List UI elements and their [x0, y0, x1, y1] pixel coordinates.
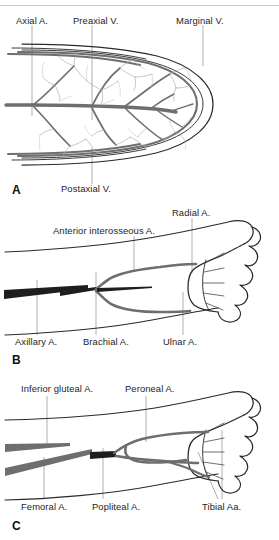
- plexus-lower-h: [138, 128, 147, 137]
- plexus-upper-v: [60, 96, 72, 101]
- plexus-lower-d: [86, 139, 94, 151]
- anterior-interosseous-artery: [97, 287, 152, 292]
- label-axial-artery: Axial A.: [16, 15, 48, 26]
- axial-branch-upper-4: [150, 94, 174, 109]
- plexus-lower-o: [85, 126, 92, 136]
- label-popliteal-artery: Popliteal A.: [92, 501, 140, 512]
- label-marginal-vein: Marginal V.: [176, 15, 224, 26]
- label-peroneal-artery: Peroneal A.: [125, 383, 175, 394]
- label-radial-artery: Radial A.: [172, 207, 210, 218]
- limb-artery-development-figure: Axial A. Preaxial V. Marginal V. Postaxi…: [0, 0, 279, 540]
- panel-a-embryonic-limb-bud: Axial A. Preaxial V. Marginal V. Postaxi…: [0, 8, 279, 200]
- plexus-lower-c: [40, 129, 54, 135]
- axial-branch-lower-3: [126, 109, 163, 140]
- axial-branch-upper-5: [172, 104, 193, 111]
- plexus-upper-i: [120, 68, 135, 77]
- plexus-upper-q: [42, 62, 44, 77]
- axial-branch-upper-3: [124, 74, 170, 107]
- panel-letter-b: B: [12, 353, 21, 367]
- hand-plate-contour-upper: [188, 244, 244, 312]
- plexus-lower-s: [184, 139, 186, 149]
- axial-branch-lower-4: [158, 111, 182, 127]
- label-tibial-arteries: Tibial Aa.: [202, 501, 241, 512]
- plexus-upper-d: [43, 77, 55, 85]
- plexus-upper-b: [74, 53, 78, 66]
- peroneal-artery-proximal: [114, 432, 208, 453]
- popliteal-artery: [90, 451, 116, 459]
- top-divider-rule: [0, 5, 279, 6]
- plexus-lower-p: [129, 129, 138, 137]
- plexus-upper-j: [135, 74, 152, 77]
- foot-plate-digit-scallops: [218, 398, 261, 493]
- ulnar-artery: [96, 291, 190, 312]
- label-ulnar-artery: Ulnar A.: [163, 336, 197, 347]
- panel-letter-a: A: [12, 183, 21, 197]
- lower-limb-upper-border: [5, 392, 253, 420]
- femoral-artery: [5, 449, 92, 476]
- panel-b-upper-limb-arteries: Radial A. Anterior interosseous A. Axill…: [0, 200, 279, 372]
- axial-branch-upper-1: [33, 66, 74, 105]
- label-anterior-interosseous-artery: Anterior interosseous A.: [53, 225, 155, 236]
- label-axillary-artery: Axillary A.: [15, 336, 57, 347]
- hand-plate-carpal-arc: [203, 260, 209, 310]
- plexus-upper-e: [55, 85, 60, 101]
- label-preaxial-vein: Preaxial V.: [73, 15, 119, 26]
- plexus-lower-a: [70, 139, 86, 146]
- label-femoral-artery: Femoral A.: [21, 501, 67, 512]
- plexus-upper-r: [118, 81, 120, 96]
- plexus-upper-w: [101, 100, 114, 105]
- panel-c-lower-limb-arteries: Inferior gluteal A. Peroneal A. Femoral …: [0, 372, 279, 540]
- digit-ray-2: [204, 438, 224, 442]
- digit-ray-4: [203, 293, 224, 296]
- plexus-upper-m: [170, 74, 176, 88]
- radial-artery: [96, 264, 196, 289]
- digit-ray-1: [207, 423, 224, 432]
- digit-ray-4: [203, 462, 224, 465]
- plexus-upper-a: [74, 66, 102, 90]
- plexus-lower-e: [116, 137, 130, 145]
- plexus-upper-c: [59, 57, 74, 66]
- label-brachial-artery: Brachial A.: [83, 336, 129, 347]
- inferior-gluteal-artery: [5, 443, 70, 452]
- label-inferior-gluteal-artery: Inferior gluteal A.: [21, 383, 93, 394]
- hand-plate-digit-scallops: [218, 227, 261, 322]
- plexus-upper-k: [134, 77, 136, 90]
- axial-branch-lower-2: [92, 108, 116, 145]
- plexus-lower-f: [92, 130, 104, 136]
- plexus-upper-p: [86, 65, 88, 81]
- digit-ray-2: [204, 268, 224, 272]
- plexus-upper-o: [174, 88, 176, 101]
- plexus-lower-l: [39, 135, 40, 150]
- panel-letter-c: C: [12, 519, 21, 533]
- lower-limb-lower-border: [5, 474, 218, 500]
- digit-ray-1: [207, 253, 224, 262]
- plexus-upper-g: [101, 90, 103, 105]
- label-postaxial-vein: Postaxial V.: [61, 183, 111, 194]
